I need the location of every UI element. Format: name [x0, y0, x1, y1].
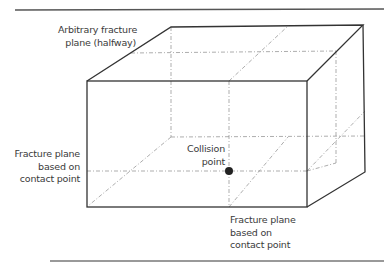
label-line: Collision — [180, 143, 225, 156]
box-edges — [87, 25, 365, 207]
label-line: Fracture plane — [230, 214, 296, 227]
label-line: Fracture plane — [4, 148, 80, 161]
label-line: Arbitrary fracture — [58, 24, 136, 37]
label-arbitrary-fracture-plane: Arbitrary fracture plane (halfway) — [58, 24, 136, 49]
fracture-planes — [87, 26, 365, 207]
label-line: contact point — [4, 173, 80, 186]
top-rule — [15, 9, 384, 10]
label-bottom-fracture-plane: Fracture plane based on contact point — [230, 214, 296, 252]
label-line: based on — [4, 161, 80, 174]
label-line: plane (halfway) — [58, 37, 136, 50]
label-collision-point: Collision point — [180, 143, 225, 168]
label-left-fracture-plane: Fracture plane based on contact point — [4, 148, 80, 186]
collision-point-marker — [225, 167, 233, 175]
label-line: based on — [230, 227, 296, 240]
label-line: contact point — [230, 239, 296, 252]
label-line: point — [180, 156, 225, 169]
